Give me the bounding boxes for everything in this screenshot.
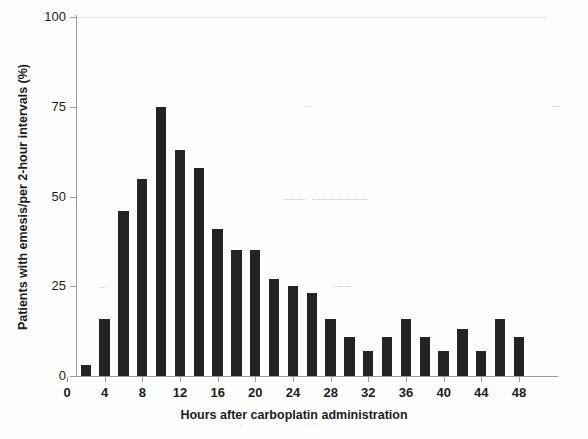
bar bbox=[307, 293, 317, 376]
x-axis-tick bbox=[368, 377, 369, 382]
x-axis-tick bbox=[331, 377, 332, 382]
x-axis-tick-label: 0 bbox=[52, 385, 82, 400]
x-axis-tick bbox=[67, 377, 68, 382]
bar bbox=[118, 211, 128, 376]
x-axis-title: Hours after carboplatin administration bbox=[0, 408, 588, 422]
bar bbox=[194, 168, 204, 376]
scan-artifact bbox=[239, 425, 242, 426]
x-axis-tick-label: 20 bbox=[240, 385, 270, 400]
x-axis-tick-label: 8 bbox=[127, 385, 157, 400]
x-axis-tick-label: 40 bbox=[429, 385, 459, 400]
bar bbox=[325, 319, 335, 376]
bar bbox=[344, 337, 354, 376]
bar bbox=[401, 319, 411, 376]
x-axis-tick-label: 12 bbox=[165, 385, 195, 400]
x-axis-tick bbox=[444, 377, 445, 382]
x-axis-tick-label: 28 bbox=[316, 385, 346, 400]
bar bbox=[476, 351, 486, 376]
x-axis-tick-label: 4 bbox=[90, 385, 120, 400]
bar bbox=[212, 229, 222, 376]
bar bbox=[438, 351, 448, 376]
scan-artifact bbox=[333, 286, 351, 287]
scan-artifact bbox=[284, 199, 306, 200]
x-axis-tick-label: 36 bbox=[391, 385, 421, 400]
bar bbox=[175, 150, 185, 376]
bar bbox=[231, 250, 241, 376]
x-axis-tick-label: 32 bbox=[353, 385, 383, 400]
bar-series bbox=[0, 0, 588, 376]
x-axis-tick bbox=[142, 377, 143, 382]
x-axis-tick bbox=[105, 377, 106, 382]
bar bbox=[288, 286, 298, 376]
x-axis-tick-label: 16 bbox=[203, 385, 233, 400]
scan-artifact bbox=[306, 106, 310, 107]
bar bbox=[269, 279, 279, 376]
x-axis-tick-label: 48 bbox=[504, 385, 534, 400]
x-axis-line bbox=[76, 376, 558, 377]
bar bbox=[99, 319, 109, 376]
scan-artifact bbox=[100, 287, 105, 288]
chart-figure: Patients with emesis/per 2-hour interval… bbox=[0, 0, 588, 439]
bar bbox=[81, 365, 91, 376]
bar bbox=[382, 337, 392, 376]
x-axis-tick bbox=[519, 377, 520, 382]
bar bbox=[137, 179, 147, 376]
bar bbox=[420, 337, 430, 376]
x-axis-tick-label: 24 bbox=[278, 385, 308, 400]
bar bbox=[514, 337, 524, 376]
bar bbox=[457, 329, 467, 376]
x-axis-tick bbox=[255, 377, 256, 382]
scan-artifact bbox=[553, 106, 560, 107]
x-axis-tick bbox=[218, 377, 219, 382]
y-axis-tick bbox=[70, 376, 77, 377]
x-axis-tick bbox=[406, 377, 407, 382]
bar bbox=[250, 250, 260, 376]
x-axis-tick bbox=[180, 377, 181, 382]
x-axis-tick-label: 44 bbox=[466, 385, 496, 400]
bar bbox=[495, 319, 505, 376]
bar bbox=[156, 107, 166, 376]
scan-artifact bbox=[312, 199, 368, 200]
x-axis-tick bbox=[481, 377, 482, 382]
x-axis-tick bbox=[293, 377, 294, 382]
bar bbox=[363, 351, 373, 376]
